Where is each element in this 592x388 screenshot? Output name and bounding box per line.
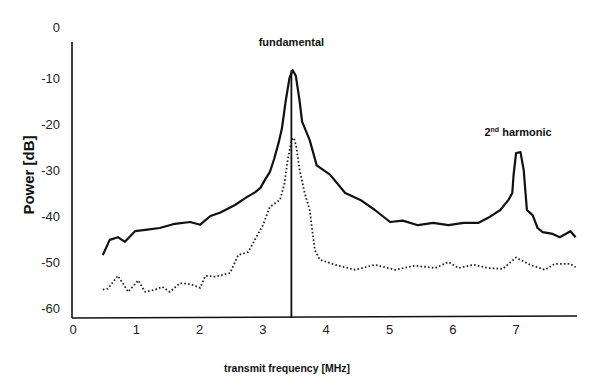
x-axis-line	[72, 316, 577, 318]
annotation-2nd-harmonic: 2nd harmonic	[484, 126, 551, 138]
x-axis-label: transmit frequency [MHz]	[224, 362, 350, 374]
x-tick-label: 6	[449, 322, 456, 337]
x-tick-label: 0	[69, 322, 76, 337]
y-axis-ticks: 0-10-20-30-40-50-60	[41, 20, 60, 316]
annotation-harmonic-sup: nd	[491, 126, 500, 133]
y-axis-label: Power [dB]	[20, 135, 37, 214]
x-tick-label: 3	[259, 322, 266, 337]
x-tick-label: 4	[323, 322, 330, 337]
x-tick-label: 1	[133, 322, 140, 337]
y-tick-label: -50	[41, 255, 60, 270]
x-tick-label: 5	[386, 322, 393, 337]
y-tick-label: -10	[41, 71, 60, 86]
solid-spectrum-line	[103, 70, 576, 255]
y-tick-label: -40	[41, 209, 60, 224]
y-tick-label: 0	[53, 20, 60, 35]
spectrum-chart: 0-10-20-30-40-50-60 01234567 Power [dB] …	[0, 0, 592, 388]
x-tick-label: 2	[196, 322, 203, 337]
x-axis-ticks: 01234567	[69, 322, 519, 337]
annotation-fundamental: fundamental	[259, 36, 324, 48]
y-tick-label: -60	[41, 301, 60, 316]
y-tick-label: -30	[41, 163, 60, 178]
y-tick-label: -20	[41, 117, 60, 132]
dotted-spectrum-line	[103, 138, 576, 292]
x-tick-label: 7	[512, 322, 519, 337]
annotation-harmonic-rest: harmonic	[499, 126, 552, 138]
